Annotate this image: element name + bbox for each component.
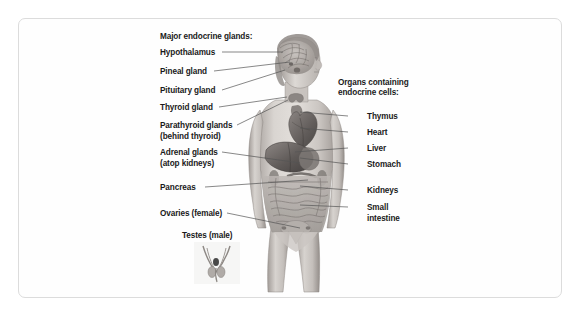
- label-hypothalamus: Hypothalamus: [160, 48, 215, 59]
- label-pancreas: Pancreas: [160, 183, 196, 194]
- label-thymus: Thymus: [367, 112, 398, 123]
- anatomy-figure: [0, 0, 582, 318]
- label-adrenal-glands-line1: Adrenal glands: [160, 148, 218, 159]
- label-small-intestine-line1: Small: [367, 203, 400, 214]
- testes-inset-illustration: [194, 242, 240, 284]
- label-hypothalamus-line1: Hypothalamus: [160, 48, 215, 59]
- label-heart-line1: Heart: [367, 128, 387, 139]
- label-kidneys: Kidneys: [367, 186, 398, 197]
- label-stomach: Stomach: [367, 160, 401, 171]
- leader-line-pituitary-gland: [222, 70, 285, 90]
- label-testes-male-line1: Testes (male): [182, 231, 232, 242]
- label-ovaries-female: Ovaries (female): [160, 209, 222, 220]
- label-ovaries-female-line1: Ovaries (female): [160, 209, 222, 220]
- body-figure: [249, 34, 345, 292]
- label-testes-male: Testes (male): [182, 231, 232, 242]
- label-adrenal-glands: Adrenal glands(atop kidneys): [160, 148, 218, 169]
- right-column-heading-line1: Organs containing: [338, 78, 409, 89]
- label-parathyroid-glands-line2: (behind thyroid): [160, 132, 232, 143]
- label-pituitary-gland: Pituitary gland: [160, 86, 215, 97]
- endocrine-system-diagram-screenshot: Major endocrine glands: Organs containin…: [0, 0, 582, 318]
- label-thyroid-gland: Thyroid gland: [160, 103, 213, 114]
- label-stomach-line1: Stomach: [367, 160, 401, 171]
- label-pituitary-gland-line1: Pituitary gland: [160, 86, 215, 97]
- label-pineal-gland-line1: Pineal gland: [160, 67, 207, 78]
- label-small-intestine: Smallintestine: [367, 203, 400, 224]
- label-adrenal-glands-line2: (atop kidneys): [160, 159, 218, 170]
- label-liver: Liver: [367, 144, 386, 155]
- label-heart: Heart: [367, 128, 387, 139]
- label-small-intestine-line2: intestine: [367, 214, 400, 225]
- label-pineal-gland: Pineal gland: [160, 67, 207, 78]
- label-parathyroid-glands: Parathyroid glands(behind thyroid): [160, 121, 232, 142]
- left-column-heading: Major endocrine glands:: [160, 32, 252, 43]
- label-liver-line1: Liver: [367, 144, 386, 155]
- label-thyroid-gland-line1: Thyroid gland: [160, 103, 213, 114]
- label-kidneys-line1: Kidneys: [367, 186, 398, 197]
- label-thymus-line1: Thymus: [367, 112, 398, 123]
- label-parathyroid-glands-line1: Parathyroid glands: [160, 121, 232, 132]
- right-column-heading-line2: endocrine cells:: [338, 88, 399, 99]
- label-pancreas-line1: Pancreas: [160, 183, 196, 194]
